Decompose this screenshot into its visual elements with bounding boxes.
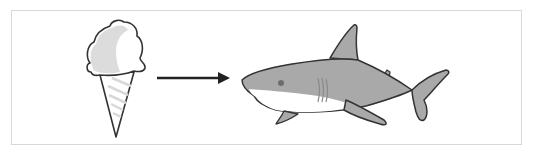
shark-icon bbox=[242, 25, 449, 125]
ice-cream-icon bbox=[87, 20, 145, 137]
diagram-canvas bbox=[0, 0, 536, 154]
arrow-icon bbox=[157, 72, 230, 84]
